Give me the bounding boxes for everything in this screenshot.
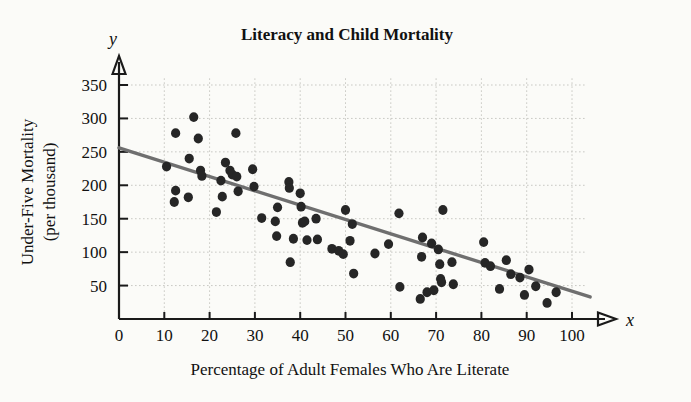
data-point <box>216 176 225 186</box>
x-tick-label: 0 <box>115 326 124 345</box>
data-point <box>370 249 379 259</box>
data-point <box>345 236 354 246</box>
y-tick-label: 300 <box>82 109 108 128</box>
data-point <box>417 252 426 262</box>
data-point <box>249 182 258 192</box>
x-tick-label: 80 <box>473 326 490 345</box>
x-tick-label: 60 <box>382 326 399 345</box>
data-point <box>302 235 311 245</box>
data-point <box>171 128 180 138</box>
data-point <box>286 257 295 267</box>
y-tick-label: 250 <box>82 143 108 162</box>
x-tick-label: 40 <box>292 326 309 345</box>
data-point <box>218 192 227 202</box>
y-axis-title-line2: (per thousand) <box>40 143 59 242</box>
x-axis-title: Percentage of Adult Females Who Are Lite… <box>191 360 510 379</box>
data-point <box>311 214 320 224</box>
data-point <box>429 285 438 295</box>
data-point <box>479 237 488 247</box>
y-tick-label: 350 <box>82 76 108 95</box>
y-axis-symbol-label: y <box>107 29 117 49</box>
data-point <box>296 188 305 198</box>
data-point <box>212 207 221 217</box>
data-point <box>349 269 358 279</box>
data-point <box>495 284 504 294</box>
x-tick-label: 10 <box>156 326 173 345</box>
data-point <box>185 154 194 164</box>
y-tick-label: 100 <box>82 243 108 262</box>
data-point <box>542 298 551 308</box>
y-tick-label: 50 <box>90 277 107 296</box>
y-tick-label: 200 <box>82 176 108 195</box>
data-point <box>435 259 444 269</box>
x-axis-symbol-label: x <box>625 310 634 330</box>
data-point <box>272 231 281 241</box>
data-point <box>515 273 524 283</box>
x-tick-label: 20 <box>201 326 218 345</box>
data-point <box>447 257 456 267</box>
data-point <box>248 164 257 174</box>
data-point <box>395 282 404 292</box>
data-point <box>289 234 298 244</box>
x-tick-label: 30 <box>246 326 263 345</box>
data-point <box>162 162 171 172</box>
y-axis-title-line1: Under-Five Mortality <box>18 118 37 265</box>
data-point <box>520 290 529 300</box>
data-point <box>502 255 511 265</box>
data-point <box>231 128 240 138</box>
data-point <box>285 183 294 193</box>
data-point <box>438 205 447 215</box>
data-point <box>232 172 241 182</box>
data-point <box>234 186 243 196</box>
x-tick-labels: 0102030405060708090100 <box>115 326 585 345</box>
data-point <box>418 233 427 243</box>
data-point <box>524 265 533 275</box>
data-point <box>416 294 425 304</box>
data-point <box>434 245 443 255</box>
data-point <box>257 213 266 223</box>
data-point <box>384 239 393 249</box>
data-point <box>197 171 206 181</box>
data-point <box>271 216 280 226</box>
data-point <box>170 197 179 207</box>
chart-title: Literacy and Child Mortality <box>241 25 454 44</box>
y-tick-labels: 50100150200250300350 <box>82 76 108 296</box>
x-tick-label: 50 <box>337 326 354 345</box>
data-point <box>552 287 561 297</box>
data-point <box>297 202 306 212</box>
scatter-plot-svg: 0102030405060708090100 50100150200250300… <box>0 0 691 402</box>
x-tick-label: 100 <box>559 326 585 345</box>
data-points <box>162 112 561 308</box>
data-point <box>300 216 309 226</box>
data-point <box>194 134 203 144</box>
x-tick-label: 70 <box>428 326 445 345</box>
chart-figure: 0102030405060708090100 50100150200250300… <box>0 0 691 402</box>
data-point <box>339 249 348 259</box>
data-point <box>348 219 357 229</box>
data-point <box>506 269 515 279</box>
data-point <box>437 277 446 287</box>
y-tick-label: 150 <box>82 210 108 229</box>
data-point <box>449 279 458 289</box>
data-point <box>171 186 180 196</box>
data-point <box>189 112 198 122</box>
data-point <box>341 205 350 215</box>
data-point <box>531 281 540 291</box>
x-tick-label: 90 <box>518 326 535 345</box>
data-point <box>313 235 322 245</box>
data-point <box>184 192 193 202</box>
data-point <box>394 208 403 218</box>
data-point <box>486 261 495 271</box>
data-point <box>273 202 282 212</box>
